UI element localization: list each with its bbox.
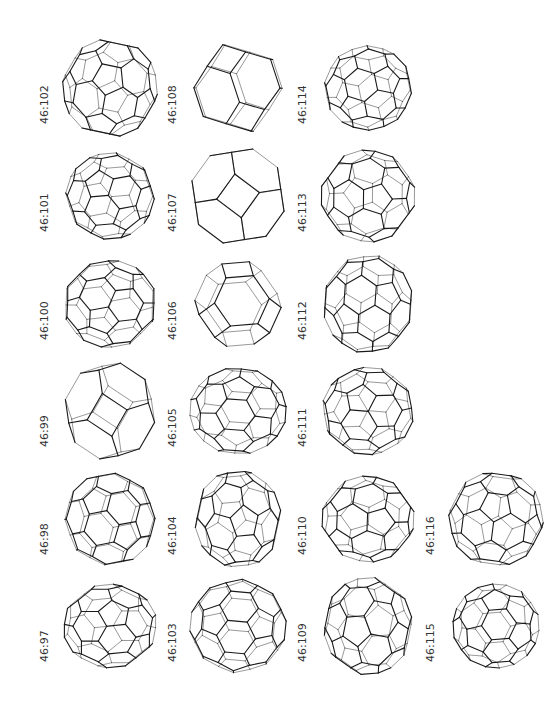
polyhedron-edge [89,310,90,326]
polyhedron-edge [385,584,400,595]
polyhedron-edge [209,369,226,377]
polyhedron-edge [96,224,113,225]
polyhedron-edge [95,626,114,628]
polyhedron-edge [210,152,231,155]
polyhedron-edge [128,491,140,505]
polyhedron-edge [394,54,406,66]
polyhedron-edge [108,307,118,321]
polyhedron-edge [115,327,133,330]
polyhedron-edge [461,533,475,546]
polyhedron-edge [203,117,226,124]
polyhedron-edge [405,421,413,437]
polyhedron-edge [86,117,91,130]
polyhedron-edge [214,513,230,518]
polyhedron-edge [204,476,217,489]
polyhedron-edge [466,497,468,515]
polyhedron-edge [333,60,339,75]
polyhedron-edge [327,207,333,215]
polyhedron-edge [514,656,527,665]
polyhedron-edge [118,95,128,112]
polyhedron-edge [88,216,90,228]
polyhedra-figure: 46:10246:10146:10046:9946:9846:9746:1084… [0,0,560,712]
polyhedron-edge [486,477,493,489]
polyhedron-edge [352,158,370,164]
polyhedron-edge [327,179,330,193]
polyhedron-edge [325,412,334,414]
polyhedron-edge [339,156,344,163]
polyhedron-edge [199,303,215,314]
polyhedron-edge [371,634,388,637]
polyhedron-edge [493,477,512,480]
polyhedron-edge [90,213,106,216]
polyhedron-edge [206,264,222,275]
polyhedron-edge [226,659,245,661]
polyhedron-edge [326,194,329,210]
polyhedron-edge [402,292,411,300]
polyhedron-edge [235,550,251,555]
polyhedron-edge [104,238,121,239]
polyhedron-edge [76,289,83,305]
polyhedron-label: 46:103 [166,602,180,662]
polyhedron-label: 46:98 [38,495,52,555]
polyhedron-label: 46:102 [38,64,52,124]
polyhedron-edge [338,615,348,630]
polyhedron-edge [114,542,128,550]
polyhedron-edge [99,370,102,393]
polyhedron-edge [216,413,224,429]
polyhedron-edge [364,601,374,616]
polyhedron-edge [227,536,236,550]
polyhedron-edge [362,150,375,151]
polyhedron-edge [357,346,373,349]
polyhedron-edge [406,183,409,199]
polyhedron-edge [369,499,384,507]
polyhedron-edge [358,74,371,85]
polyhedron-edge [392,292,402,304]
polyhedron-edge [254,515,258,534]
polyhedron-edge [399,322,410,336]
polyhedron-edge [101,168,107,183]
polyhedron-edge [374,66,388,73]
polyhedron-edge [356,665,369,670]
polyhedron-edge [384,536,386,549]
polyhedron-edge [334,412,343,427]
polyhedron-edge [338,230,351,231]
polyhedron-edge [362,103,379,108]
polyhedron-edge [117,116,135,124]
polyhedron-edge [221,598,232,613]
polyhedron-edge [224,429,244,430]
polyhedron-edge [83,486,97,499]
polyhedron-edge [115,473,130,480]
polyhedron-edge [396,68,407,73]
polyhedron-cell: 46:102 [14,34,142,141]
polyhedron-edge [456,504,464,515]
polyhedron-edge [64,624,73,626]
polyhedron-edge [109,124,116,134]
polyhedron-edge [85,212,96,225]
polyhedron-edge [248,562,259,565]
polyhedron-edge [63,82,65,101]
polyhedron-wireframe [316,144,420,248]
polyhedron-edge [123,559,133,561]
polyhedron-edge [67,196,73,212]
polyhedron-edge [218,451,234,453]
polyhedron-edge [370,558,373,562]
polyhedron-wireframe [444,467,548,571]
polyhedron-edge [80,533,92,547]
polyhedron-edge [100,456,118,459]
polyhedron-edge [381,534,384,549]
polyhedron-edge [375,286,376,306]
polyhedron-edge [73,626,82,641]
polyhedron-edge [107,197,112,213]
polyhedron-edge [204,613,220,616]
polyhedron-edge [231,591,250,593]
polyhedron-edge [368,49,385,54]
polyhedron-cell: 46:108 [142,34,270,141]
polyhedron-edge [78,266,90,278]
polyhedron-edge [452,533,457,546]
polyhedron-edge [364,367,382,368]
polyhedron-edge [348,257,364,260]
polyhedron-edge [78,644,92,647]
polyhedron-edge [102,113,117,123]
polyhedron-edge [98,600,112,611]
polyhedron-edge [78,279,84,289]
